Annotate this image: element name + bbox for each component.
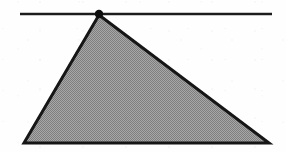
apex-vertex-dot	[95, 10, 103, 18]
figure-canvas	[0, 0, 286, 152]
geometry-figure	[0, 0, 286, 152]
